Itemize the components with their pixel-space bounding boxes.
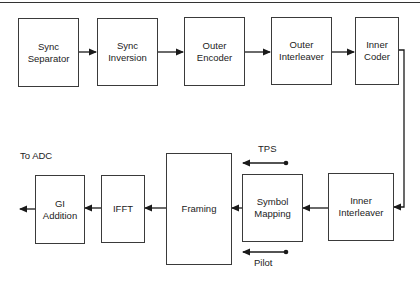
tps-label: TPS [258, 143, 276, 154]
block-outer-encoder: Outer Encoder [184, 17, 245, 86]
block-label: Inner Coder [364, 39, 390, 63]
block-label: Outer Interleaver [279, 39, 324, 63]
block-inner-coder: Inner Coder [355, 17, 399, 85]
block-label: Sync Inversion [108, 40, 147, 64]
block-ifft: IFFT [101, 175, 145, 243]
block-label: Sync Separator [28, 41, 70, 65]
to-adc-label: To ADC [20, 150, 52, 161]
block-label: Inner Interleaver [339, 195, 384, 219]
block-label: Framing [182, 203, 217, 215]
block-sync-separator: Sync Separator [18, 18, 79, 87]
block-inner-interleaver: Inner Interleaver [328, 173, 394, 241]
block-label: Outer Encoder [197, 40, 232, 64]
block-outer-interleaver: Outer Interleaver [271, 17, 332, 85]
block-label: IFFT [113, 203, 133, 215]
block-label: Symbol Mapping [254, 196, 290, 220]
block-gi-addition: GI Addition [35, 175, 85, 244]
block-framing: Framing [166, 153, 232, 265]
block-symbol-mapping: Symbol Mapping [242, 174, 303, 242]
pilot-label: Pilot [254, 257, 272, 268]
block-sync-inversion: Sync Inversion [97, 18, 158, 86]
block-label: GI Addition [43, 198, 77, 222]
